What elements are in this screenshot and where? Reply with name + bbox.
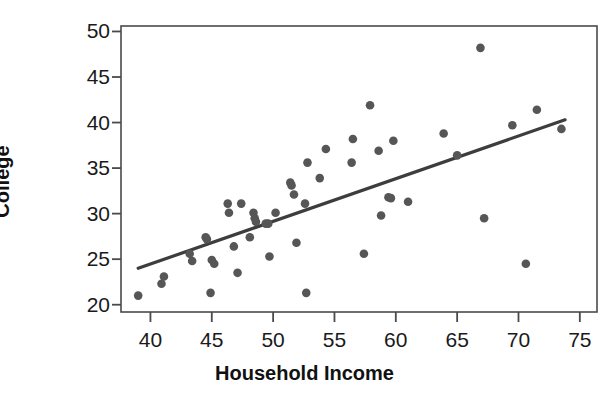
data-point bbox=[557, 125, 566, 134]
data-point bbox=[230, 242, 239, 251]
data-point bbox=[290, 190, 299, 199]
data-point bbox=[246, 233, 255, 242]
data-point bbox=[287, 181, 296, 190]
data-point bbox=[366, 101, 375, 110]
data-point bbox=[374, 146, 383, 155]
data-point bbox=[157, 279, 166, 288]
data-point bbox=[301, 199, 310, 208]
data-point bbox=[252, 218, 261, 227]
data-point bbox=[322, 145, 331, 154]
data-point bbox=[389, 136, 398, 145]
y-tick-label: 25 bbox=[52, 247, 110, 271]
scatter-chart: College Household Income 202530354045504… bbox=[0, 0, 609, 400]
x-tick-label: 55 bbox=[323, 328, 346, 352]
x-axis-label: Household Income bbox=[0, 362, 609, 385]
data-point bbox=[387, 194, 396, 203]
data-point bbox=[265, 252, 274, 261]
data-point bbox=[225, 208, 234, 217]
y-tick-label: 50 bbox=[52, 19, 110, 43]
data-point bbox=[302, 289, 311, 298]
x-tick-label: 75 bbox=[568, 328, 591, 352]
data-point bbox=[533, 105, 542, 114]
data-point bbox=[206, 289, 215, 298]
x-tick-label: 70 bbox=[507, 328, 530, 352]
y-tick-label: 30 bbox=[52, 202, 110, 226]
data-point bbox=[480, 214, 489, 223]
y-axis-label: College bbox=[0, 145, 14, 217]
data-point bbox=[237, 199, 246, 208]
y-tick-label: 40 bbox=[52, 111, 110, 135]
plot-frame bbox=[121, 26, 597, 312]
x-tick-label: 50 bbox=[261, 328, 284, 352]
data-point bbox=[439, 129, 448, 138]
data-point bbox=[360, 249, 369, 258]
data-point bbox=[223, 199, 232, 208]
x-tick-label: 40 bbox=[139, 328, 162, 352]
x-tick-label: 45 bbox=[200, 328, 223, 352]
data-points bbox=[134, 44, 566, 300]
data-point bbox=[377, 211, 386, 220]
data-point bbox=[264, 219, 273, 228]
data-point bbox=[404, 197, 413, 206]
data-point bbox=[508, 121, 517, 130]
data-point bbox=[160, 272, 169, 281]
data-point bbox=[315, 174, 324, 183]
x-tick-label: 65 bbox=[445, 328, 468, 352]
data-point bbox=[476, 44, 485, 53]
y-tick-label: 20 bbox=[52, 293, 110, 317]
data-point bbox=[188, 257, 197, 266]
data-point bbox=[453, 151, 462, 160]
y-tick-label: 45 bbox=[52, 65, 110, 89]
data-point bbox=[271, 208, 280, 217]
data-point bbox=[522, 259, 531, 268]
data-point bbox=[233, 269, 242, 278]
x-tick-label: 60 bbox=[384, 328, 407, 352]
data-point bbox=[203, 235, 212, 244]
data-point bbox=[292, 238, 301, 247]
data-point bbox=[185, 249, 194, 258]
axis-ticks bbox=[112, 31, 580, 322]
data-point bbox=[134, 291, 143, 300]
data-point bbox=[210, 259, 219, 268]
data-point bbox=[347, 158, 356, 167]
y-tick-label: 35 bbox=[52, 156, 110, 180]
data-point bbox=[303, 158, 312, 167]
data-point bbox=[349, 135, 358, 144]
